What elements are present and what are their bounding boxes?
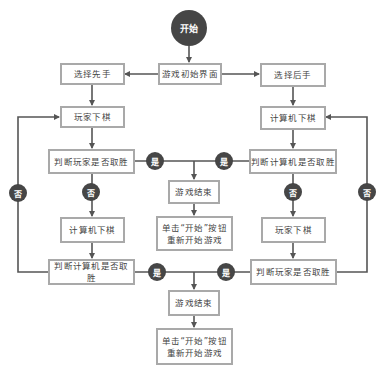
right-check-player-box: 判断玩家是否取胜 [250,259,337,285]
restart-line-1: 单击“开始”按钮 [162,335,227,347]
mid2-game-over-box: 游戏结束 [168,290,220,316]
no-node-left-mid: 否 [82,183,100,201]
right-computer-move-box: 计算机下棋 [260,106,326,130]
init-screen-box: 游戏初始界面 [158,63,222,85]
mid2-restart-box: 单击“开始”按钮 重新开始游戏 [156,328,233,365]
no-node-right-loop: 否 [358,183,376,201]
right-check-computer-box: 判断计算机是否取胜 [249,149,337,174]
restart-line-1: 单击“开始”按钮 [162,222,227,234]
restart-line-2: 重新开始游戏 [167,234,223,246]
right-player-move-box: 玩家下棋 [261,217,326,243]
left-check-player-box: 判断玩家是否取胜 [48,149,135,174]
restart-line-2: 重新开始游戏 [167,347,223,359]
no-node-right-mid: 否 [284,183,302,201]
choose-second-box: 选择后手 [260,63,326,87]
yes-node-upper-left: 是 [146,152,164,170]
left-player-move-box: 玩家下棋 [60,106,125,128]
left-computer-move-box: 计算机下棋 [60,217,125,243]
left-check-computer-box: 判断计算机是否取胜 [48,259,135,285]
no-node-left-loop: 否 [9,184,27,202]
yes-node-lower-left: 是 [148,263,166,281]
mid1-game-over-box: 游戏结束 [168,180,220,204]
start-node: 开始 [171,10,207,46]
yes-node-upper-right: 是 [215,152,233,170]
mid1-restart-box: 单击“开始”按钮 重新开始游戏 [156,216,233,251]
choose-first-box: 选择先手 [60,63,125,85]
yes-node-lower-right: 是 [217,263,235,281]
